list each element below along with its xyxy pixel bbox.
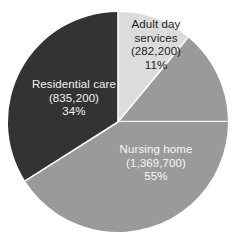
pie-label-adult-day-services: Adult day services (282,200) 11%	[114, 18, 198, 72]
pie-label-adult-day-services-value: (282,200)	[114, 45, 198, 59]
pie-label-residential-care-percent: 34%	[19, 105, 129, 119]
pie-label-adult-day-services-name-line1: Adult day	[114, 18, 198, 32]
pie-label-nursing-home-percent: 55%	[104, 170, 208, 184]
pie-label-adult-day-services-percent: 11%	[114, 59, 198, 73]
pie-label-adult-day-services-name-line2: services	[114, 32, 198, 46]
pie-label-nursing-home-value: (1,369,700)	[104, 157, 208, 171]
pie-label-residential-care-value: (835,200)	[19, 92, 129, 106]
pie-label-nursing-home-name: Nursing home	[104, 143, 208, 157]
pie-label-nursing-home: Nursing home (1,369,700) 55%	[104, 143, 208, 184]
pie-label-residential-care-name: Residential care	[19, 78, 129, 92]
pie-label-residential-care: Residential care (835,200) 34%	[19, 78, 129, 119]
pie-chart-figure: Adult day services (282,200) 11% Residen…	[0, 0, 234, 244]
